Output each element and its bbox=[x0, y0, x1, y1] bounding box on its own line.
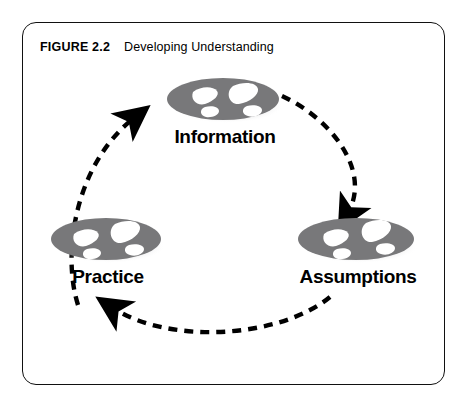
footprints-icon bbox=[290, 214, 426, 266]
node-practice[interactable]: Practice bbox=[28, 214, 188, 286]
node-information-label: Information bbox=[135, 127, 315, 146]
node-assumptions-label: Assumptions bbox=[272, 267, 444, 286]
node-assumptions[interactable]: Assumptions bbox=[272, 214, 444, 286]
cycle-diagram bbox=[0, 0, 467, 406]
node-information[interactable]: Information bbox=[135, 74, 315, 146]
node-practice-label: Practice bbox=[28, 267, 188, 286]
arrow-assumptions-to-practice bbox=[113, 297, 330, 332]
footprints-icon bbox=[42, 214, 174, 266]
footprints-icon bbox=[159, 74, 291, 126]
